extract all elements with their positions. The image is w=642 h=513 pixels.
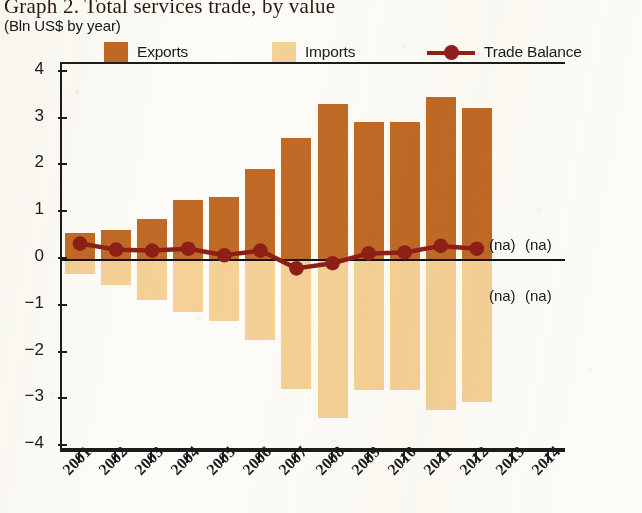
trade-balance-point — [433, 239, 448, 254]
legend-item-trade-balance: Trade Balance — [427, 42, 582, 62]
na-annotation: (na) — [525, 236, 552, 253]
plot-inner — [62, 64, 565, 448]
trade-balance-point — [73, 236, 88, 251]
trade-balance-point — [470, 241, 485, 256]
plot-area — [60, 62, 565, 450]
trade-balance-point — [145, 243, 160, 258]
y-axis-label: −3 — [8, 386, 44, 406]
trade-balance-point — [109, 242, 124, 257]
trade-balance-point — [289, 261, 304, 276]
trade-balance-series — [62, 64, 567, 452]
legend-item-imports: Imports — [272, 42, 355, 62]
trade-balance-marker-icon — [427, 42, 475, 62]
chart-page: Graph 2. Total services trade, by value … — [0, 0, 642, 513]
y-axis-label: 1 — [8, 199, 44, 219]
trade-balance-point — [397, 245, 412, 260]
y-axis-label: 0 — [8, 246, 44, 266]
y-axis-label: −4 — [8, 433, 44, 453]
y-axis-label: −2 — [8, 340, 44, 360]
legend-label-trade-balance: Trade Balance — [484, 43, 582, 61]
na-annotation: (na) — [489, 287, 516, 304]
y-axis-label: 3 — [8, 106, 44, 126]
y-axis-label: 4 — [8, 59, 44, 79]
chart-subtitle: (Bln US$ by year) — [4, 17, 121, 34]
trade-balance-point — [253, 243, 268, 258]
legend-label-imports: Imports — [305, 43, 355, 61]
y-axis-label: −1 — [8, 293, 44, 313]
y-axis-label: 2 — [8, 152, 44, 172]
na-annotation: (na) — [489, 236, 516, 253]
legend-label-exports: Exports — [137, 43, 188, 61]
imports-swatch-icon — [272, 42, 296, 62]
na-annotation: (na) — [525, 287, 552, 304]
legend-item-exports: Exports — [104, 42, 188, 62]
trade-balance-point — [361, 246, 376, 261]
trade-balance-line — [80, 244, 477, 269]
exports-swatch-icon — [104, 42, 128, 62]
trade-balance-point — [181, 241, 196, 256]
trade-balance-point — [325, 256, 340, 271]
trade-balance-point — [217, 248, 232, 263]
